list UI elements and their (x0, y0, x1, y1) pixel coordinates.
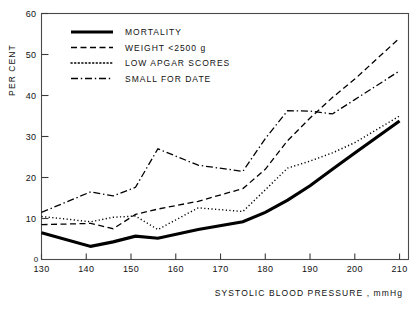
legend-label: MORTALITY (125, 27, 182, 37)
data-series-group (42, 38, 400, 246)
x-tick-label: 200 (347, 264, 363, 274)
y-tick-label: 20 (26, 173, 37, 183)
legend-label: SMALL FOR DATE (125, 74, 211, 84)
x-axis-tick-labels: 130140150160170180190200210 (33, 264, 407, 274)
series-line-small-for-date (42, 71, 400, 212)
x-tick-label: 150 (123, 264, 139, 274)
y-tick-label: 60 (26, 9, 37, 19)
y-axis-title: PER CENT (7, 44, 17, 96)
x-axis-title: SYSTOLIC BLOOD PRESSURE , mmHg (215, 288, 403, 298)
x-tick-label: 180 (257, 264, 273, 274)
x-tick-label: 190 (302, 264, 318, 274)
plot-frame (42, 14, 409, 260)
y-tick-label: 40 (26, 91, 37, 101)
y-tick-label: 30 (26, 132, 37, 142)
x-tick-label: 160 (168, 264, 184, 274)
x-tick-label: 140 (78, 264, 94, 274)
y-tick-label: 10 (26, 214, 37, 224)
x-tick-label: 170 (212, 264, 228, 274)
legend-label: LOW APGAR SCORES (125, 58, 230, 68)
x-tick-label: 210 (391, 264, 407, 274)
legend-label: WEIGHT <2500 g (125, 43, 206, 53)
line-chart: 130140150160170180190200210 102030405060… (0, 0, 417, 313)
x-axis-ticks (42, 254, 400, 260)
x-tick-label: 130 (33, 264, 49, 274)
origin-label: 0 (34, 255, 39, 264)
y-axis-tick-labels: 102030405060 (26, 9, 37, 224)
series-line-mortality (42, 121, 400, 246)
chart-legend: MORTALITYWEIGHT <2500 gLOW APGAR SCORESS… (71, 27, 230, 83)
y-axis-ticks (42, 14, 49, 219)
series-line-low-apgar-scores (42, 116, 400, 230)
y-tick-label: 50 (26, 50, 37, 60)
chart-figure: 130140150160170180190200210 102030405060… (0, 0, 417, 313)
